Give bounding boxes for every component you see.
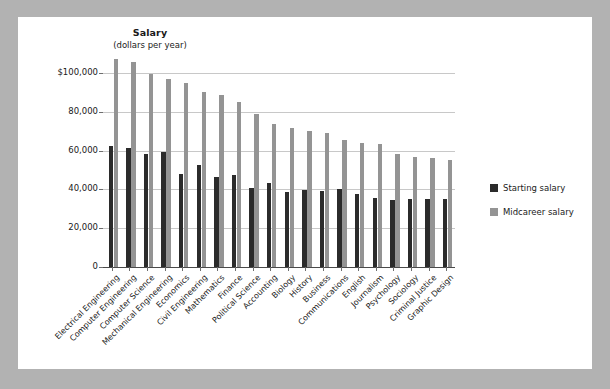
gridline: [103, 228, 455, 229]
bar-midcareer-salary: [307, 131, 312, 267]
bar-midcareer-salary: [254, 114, 259, 267]
bar-midcareer-salary: [413, 157, 418, 267]
bar-group: [320, 52, 330, 267]
bar-starting-salary: [267, 183, 272, 267]
bar-midcareer-salary: [360, 143, 365, 267]
bar-starting-salary: [232, 175, 237, 267]
bar-group: [302, 52, 312, 267]
y-axis-tick-label: 60,000: [68, 145, 98, 155]
y-axis-tick: [99, 267, 103, 268]
bar-group: [179, 52, 189, 267]
legend-item-label: Starting salary: [503, 183, 565, 193]
y-axis-tick: [99, 112, 103, 113]
bar-midcareer-salary: [290, 128, 295, 267]
bar-midcareer-salary: [184, 83, 189, 267]
bar-starting-salary: [390, 200, 395, 267]
bar-group: [126, 52, 136, 267]
bar-midcareer-salary: [448, 160, 453, 267]
y-axis-tick-label: 20,000: [68, 222, 98, 232]
bar-group: [267, 52, 277, 267]
legend-swatch-icon: [490, 208, 498, 216]
bar-group: [337, 52, 347, 267]
bar-midcareer-salary: [272, 124, 277, 267]
x-axis-tick: [341, 267, 342, 271]
x-axis-tick: [358, 267, 359, 271]
bar-starting-salary: [214, 177, 219, 267]
bar-starting-salary: [320, 191, 325, 267]
gridline: [103, 151, 455, 152]
bar-group: [443, 52, 453, 267]
x-axis-tick: [253, 267, 254, 271]
y-axis-tick-label: 80,000: [68, 106, 98, 116]
plot-area: $100,00080,00060,00040,00020,0000Electri…: [103, 52, 455, 267]
bar-midcareer-salary: [395, 154, 400, 267]
legend-item: Starting salary: [490, 183, 574, 193]
legend-item-label: Midcareer salary: [503, 207, 574, 217]
bar-midcareer-salary: [166, 79, 171, 267]
bar-group: [285, 52, 295, 267]
y-axis-tick: [99, 73, 103, 74]
bar-midcareer-salary: [378, 144, 383, 267]
y-axis-tick: [99, 151, 103, 152]
x-axis-tick: [446, 267, 447, 271]
y-axis-tick: [99, 228, 103, 229]
plot-inner: $100,00080,00060,00040,00020,0000Electri…: [103, 52, 455, 267]
chart-title-block: Salary (dollars per year): [50, 27, 250, 51]
bar-midcareer-salary: [430, 158, 435, 267]
bar-group: [249, 52, 259, 267]
gridline: [103, 73, 455, 74]
bar-midcareer-salary: [149, 74, 154, 267]
bar-starting-salary: [355, 194, 360, 267]
page-title: Salary: [50, 27, 250, 39]
bar-group: [144, 52, 154, 267]
x-axis-tick: [112, 267, 113, 271]
y-axis-tick-label: 40,000: [68, 183, 98, 193]
bar-group: [373, 52, 383, 267]
x-axis-tick: [129, 267, 130, 271]
bar-starting-salary: [161, 152, 166, 267]
bar-midcareer-salary: [219, 95, 224, 267]
x-axis-tick: [429, 267, 430, 271]
bar-midcareer-salary: [114, 59, 119, 267]
screenshot-frame: Salary (dollars per year) $100,00080,000…: [0, 0, 610, 389]
bar-group: [355, 52, 365, 267]
x-axis-tick: [376, 267, 377, 271]
legend-swatch-icon: [490, 184, 498, 192]
bar-starting-salary: [408, 199, 413, 267]
bar-group: [390, 52, 400, 267]
bar-starting-salary: [285, 192, 290, 267]
bar-starting-salary: [197, 165, 202, 267]
bar-group: [232, 52, 242, 267]
x-axis-tick: [217, 267, 218, 271]
bar-starting-salary: [249, 188, 254, 267]
bar-midcareer-salary: [131, 62, 136, 267]
bar-group: [408, 52, 418, 267]
x-axis-tick: [323, 267, 324, 271]
gridline: [103, 112, 455, 113]
bar-starting-salary: [425, 199, 430, 267]
chart-subtitle: (dollars per year): [50, 39, 250, 51]
bar-midcareer-salary: [342, 140, 347, 267]
bar-starting-salary: [337, 189, 342, 267]
x-axis-tick: [305, 267, 306, 271]
bar-starting-salary: [109, 146, 114, 267]
bar-starting-salary: [443, 199, 448, 267]
y-axis-tick: [99, 189, 103, 190]
x-axis-tick: [235, 267, 236, 271]
x-axis-tick: [411, 267, 412, 271]
x-axis-tick: [165, 267, 166, 271]
gridline: [103, 189, 455, 190]
bar-group: [425, 52, 435, 267]
bar-starting-salary: [373, 198, 378, 267]
x-axis-tick: [200, 267, 201, 271]
bar-group: [109, 52, 119, 267]
bar-midcareer-salary: [325, 133, 330, 267]
x-axis-line: [103, 267, 455, 268]
bar-starting-salary: [126, 148, 131, 267]
x-axis-tick: [147, 267, 148, 271]
chart-legend: Starting salaryMidcareer salary: [490, 183, 574, 231]
y-axis-tick-label: $100,000: [57, 67, 98, 77]
bar-midcareer-salary: [237, 102, 242, 267]
bar-group: [197, 52, 207, 267]
bar-group: [214, 52, 224, 267]
